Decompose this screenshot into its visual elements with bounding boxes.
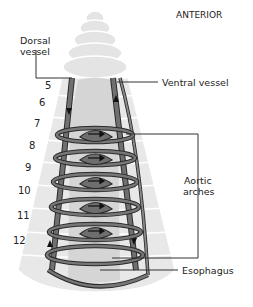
aortic-arches-label-line2: arches (183, 186, 215, 197)
anterior-label: ANTERIOR (176, 10, 222, 21)
segment-9-label: 9 (25, 162, 31, 173)
ventral-vessel-label: Ventral vessel (162, 77, 229, 88)
segment-7-label: 7 (34, 118, 40, 129)
segment-10-label: 10 (18, 185, 31, 196)
aortic-arches-label-line1: Aortic (184, 175, 212, 186)
segment-12-label: 12 (13, 235, 26, 246)
earthworm-circulatory-diagram: ANTERIOR Dorsal vessel Ventral vessel Ao… (0, 0, 253, 307)
anterior-segments (63, 11, 127, 78)
segment-11-label: 11 (17, 210, 30, 221)
segment-8-label: 8 (29, 140, 35, 151)
dorsal-vessel-label-line1: Dorsal (20, 35, 50, 46)
segment-6-label: 6 (39, 97, 45, 108)
dorsal-vessel-label-line2: vessel (20, 46, 50, 57)
segment-5-label: 5 (45, 80, 51, 91)
esophagus-label: Esophagus (182, 265, 234, 276)
